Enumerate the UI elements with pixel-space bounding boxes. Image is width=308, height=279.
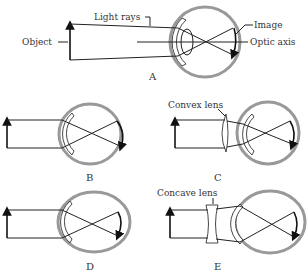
label-optic-axis: Optic axis [250, 37, 296, 47]
caption-b: B [86, 172, 93, 183]
panel-b: B [7, 104, 123, 183]
cornea [243, 114, 254, 155]
eyeball [58, 192, 130, 252]
concave-lens [206, 205, 218, 243]
caption-d: D [86, 261, 94, 272]
image-arrow [118, 212, 121, 236]
panel-a: Object Light rays Image Optic axis A [22, 7, 296, 82]
eye-diagram: Object Light rays Image Optic axis A B C… [0, 0, 308, 279]
caption-e: E [214, 261, 221, 272]
eyeball [235, 191, 305, 253]
label-image: Image [254, 20, 283, 30]
label-light-rays: Light rays [94, 12, 141, 22]
image-arrow [294, 212, 297, 237]
caption-c: C [214, 172, 222, 183]
label-object: Object [22, 37, 52, 47]
cornea [231, 204, 243, 244]
panel-e: Concave lens E [157, 188, 305, 272]
panel-d: D [7, 192, 130, 272]
caption-a: A [148, 71, 157, 82]
image-arrow [290, 121, 294, 146]
panel-c: Convex lens C [168, 100, 299, 183]
label-convex-lens: Convex lens [168, 100, 223, 110]
label-concave-lens: Concave lens [157, 188, 218, 198]
